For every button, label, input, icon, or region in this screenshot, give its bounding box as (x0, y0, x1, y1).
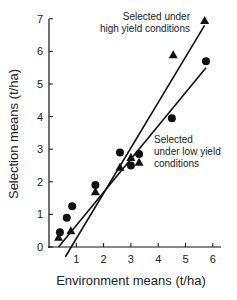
axes: 01234567123456 (37, 13, 221, 265)
circle-marker (127, 162, 135, 170)
annotation-high-yield: Selected under (123, 11, 191, 22)
x-tick-label: 5 (182, 253, 188, 265)
circle-marker (91, 181, 99, 189)
x-axis-label: Environment means (t/ha) (56, 273, 206, 288)
y-tick-label: 3 (37, 143, 43, 155)
x-tick-label: 1 (73, 253, 79, 265)
triangle-marker (200, 16, 209, 24)
annotation-low-yield: Selected (154, 134, 193, 145)
triangle-marker (169, 50, 178, 58)
circle-marker (168, 114, 176, 122)
circle-marker (56, 228, 64, 236)
triangle-marker (115, 163, 124, 171)
circle-marker (63, 214, 71, 222)
circle-marker (68, 202, 76, 210)
x-tick-label: 2 (101, 253, 107, 265)
y-tick-label: 1 (37, 208, 43, 220)
x-tick-label: 4 (155, 253, 161, 265)
x-tick-label: 3 (128, 253, 134, 265)
y-tick-label: 4 (37, 111, 43, 123)
y-tick-label: 0 (37, 241, 43, 253)
y-tick-label: 2 (37, 176, 43, 188)
annotation-low-yield: under low yield (154, 146, 221, 157)
circle-marker (116, 148, 124, 156)
y-tick-label: 6 (37, 45, 43, 57)
annotation-low-yield: conditions (154, 158, 199, 169)
data-points (54, 16, 210, 241)
circle-marker (202, 57, 210, 65)
x-tick-label: 6 (210, 253, 216, 265)
y-axis-label: Selection means (t/ha) (6, 69, 21, 199)
circle-marker (135, 150, 143, 158)
annotation-high-yield: high yield conditions (100, 23, 190, 34)
y-tick-label: 5 (37, 78, 43, 90)
triangle-marker (135, 158, 144, 166)
scatter-chart: 01234567123456 Environment means (t/ha) … (0, 0, 237, 300)
annotations: Selected underhigh yield conditionsSelec… (100, 11, 221, 169)
y-tick-label: 7 (37, 13, 43, 25)
